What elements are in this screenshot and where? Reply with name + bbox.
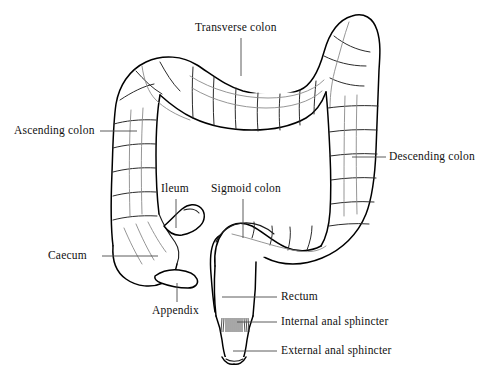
label-internal-anal-sphincter: Internal anal sphincter — [281, 316, 388, 328]
anatomy-figure: Transverse colon Ascending colon Descend… — [0, 0, 479, 374]
label-external-anal-sphincter: External anal sphincter — [281, 345, 392, 357]
label-sigmoid-colon: Sigmoid colon — [211, 183, 281, 195]
appendix-shape — [155, 270, 198, 288]
label-descending-colon: Descending colon — [389, 151, 475, 163]
internal-anal-sphincter-hatching — [221, 318, 249, 332]
label-caecum: Caecum — [48, 250, 87, 262]
label-rectum: Rectum — [281, 291, 318, 303]
rectum-left-wall — [214, 266, 216, 316]
label-transverse-colon: Transverse colon — [195, 22, 277, 34]
label-ileum: Ileum — [161, 183, 189, 195]
label-ascending-colon: Ascending colon — [14, 125, 95, 137]
rectum-right-wall — [253, 262, 256, 316]
anal-canal-left-wall — [216, 316, 226, 359]
external-anal-sphincter-shape — [222, 357, 246, 364]
label-appendix: Appendix — [152, 305, 199, 317]
